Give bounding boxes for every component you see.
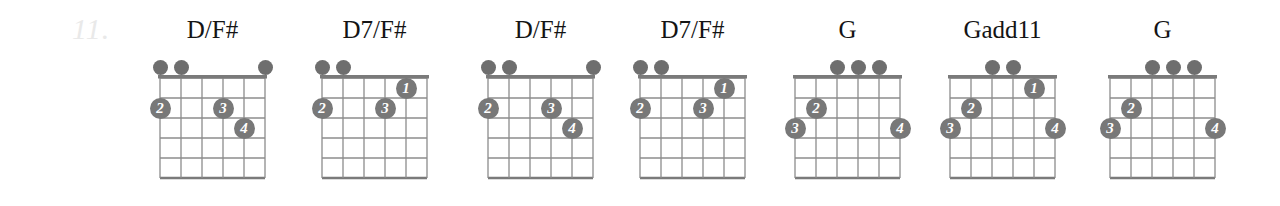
fretboard-grid: 234 bbox=[795, 78, 900, 178]
finger-number-label: 2 bbox=[484, 101, 492, 116]
finger-number-label: 3 bbox=[1106, 121, 1114, 136]
open-string-dot bbox=[1006, 60, 1021, 75]
finger-number-label: 4 bbox=[896, 121, 904, 136]
finger-number-label: 3 bbox=[219, 101, 227, 116]
finger-number-label: 4 bbox=[568, 121, 576, 136]
finger-position-marker: 2 bbox=[1121, 98, 1142, 119]
finger-number-label: 1 bbox=[402, 81, 410, 96]
finger-position-marker: 2 bbox=[806, 98, 827, 119]
finger-position-marker: 2 bbox=[630, 98, 651, 119]
chord-name-label: Gadd11 bbox=[930, 16, 1075, 44]
chord-name-label: D/F# bbox=[468, 16, 613, 44]
open-string-dot bbox=[654, 60, 669, 75]
open-string-dot bbox=[481, 60, 496, 75]
open-string-dot bbox=[1187, 60, 1202, 75]
open-string-dot bbox=[502, 60, 517, 75]
finger-position-marker: 3 bbox=[940, 118, 961, 139]
grid-lines bbox=[792, 75, 903, 181]
finger-number-label: 2 bbox=[636, 101, 644, 116]
finger-position-marker: 3 bbox=[213, 98, 234, 119]
finger-position-marker: 1 bbox=[714, 78, 735, 99]
open-string-dot bbox=[1166, 60, 1181, 75]
chord-name-label: D7/F# bbox=[302, 16, 447, 44]
finger-number-label: 2 bbox=[1127, 101, 1135, 116]
chord-diagram: D7/F#123 bbox=[302, 0, 447, 206]
finger-position-marker: 2 bbox=[961, 98, 982, 119]
open-string-dot bbox=[315, 60, 330, 75]
finger-number-label: 4 bbox=[1211, 121, 1219, 136]
open-string-dot bbox=[872, 60, 887, 75]
finger-position-marker: 4 bbox=[234, 118, 255, 139]
finger-number-label: 3 bbox=[791, 121, 799, 136]
fretboard-grid: 234 bbox=[1110, 78, 1215, 178]
finger-number-label: 2 bbox=[318, 101, 326, 116]
finger-number-label: 2 bbox=[967, 101, 975, 116]
chord-name-label: D7/F# bbox=[620, 16, 765, 44]
finger-number-label: 4 bbox=[1051, 121, 1059, 136]
fretboard-grid: 1234 bbox=[950, 78, 1055, 178]
finger-position-marker: 2 bbox=[478, 98, 499, 119]
finger-position-marker: 3 bbox=[693, 98, 714, 119]
grid-lines bbox=[1107, 75, 1218, 181]
chord-diagram: D/F#234 bbox=[468, 0, 613, 206]
fretboard-grid: 234 bbox=[488, 78, 593, 178]
finger-number-label: 3 bbox=[547, 101, 555, 116]
exercise-number: 11. bbox=[72, 12, 110, 46]
open-string-dot bbox=[830, 60, 845, 75]
finger-position-marker: 2 bbox=[150, 98, 171, 119]
open-string-dot bbox=[258, 60, 273, 75]
open-string-dot bbox=[336, 60, 351, 75]
finger-number-label: 3 bbox=[381, 101, 389, 116]
open-string-dot bbox=[153, 60, 168, 75]
finger-position-marker: 1 bbox=[1024, 78, 1045, 99]
finger-number-label: 3 bbox=[699, 101, 707, 116]
open-string-dot bbox=[586, 60, 601, 75]
finger-number-label: 2 bbox=[812, 101, 820, 116]
finger-position-marker: 3 bbox=[375, 98, 396, 119]
chord-diagram: D7/F#123 bbox=[620, 0, 765, 206]
finger-position-marker: 4 bbox=[890, 118, 911, 139]
finger-number-label: 1 bbox=[720, 81, 728, 96]
chord-diagram: Gadd111234 bbox=[930, 0, 1075, 206]
open-string-dot bbox=[633, 60, 648, 75]
open-string-dot bbox=[985, 60, 1000, 75]
chord-diagram: D/F#234 bbox=[140, 0, 285, 206]
finger-number-label: 1 bbox=[1030, 81, 1038, 96]
finger-position-marker: 1 bbox=[396, 78, 417, 99]
finger-position-marker: 2 bbox=[312, 98, 333, 119]
fretboard-grid: 123 bbox=[640, 78, 745, 178]
finger-position-marker: 4 bbox=[1045, 118, 1066, 139]
chord-diagram: G234 bbox=[775, 0, 920, 206]
chord-name-label: G bbox=[775, 16, 920, 44]
finger-position-marker: 3 bbox=[1100, 118, 1121, 139]
open-string-dot bbox=[174, 60, 189, 75]
open-string-dot bbox=[1145, 60, 1160, 75]
finger-position-marker: 3 bbox=[785, 118, 806, 139]
finger-number-label: 2 bbox=[156, 101, 164, 116]
chord-diagram: G234 bbox=[1090, 0, 1235, 206]
chord-chart-sheet: 11. D/F#234D7/F#123D/F#234D7/F#123G234Ga… bbox=[0, 0, 1280, 206]
chord-name-label: G bbox=[1090, 16, 1235, 44]
fretboard-grid: 123 bbox=[322, 78, 427, 178]
chord-name-label: D/F# bbox=[140, 16, 285, 44]
finger-position-marker: 4 bbox=[1205, 118, 1226, 139]
finger-position-marker: 3 bbox=[541, 98, 562, 119]
finger-number-label: 3 bbox=[946, 121, 954, 136]
finger-position-marker: 4 bbox=[562, 118, 583, 139]
fretboard-grid: 234 bbox=[160, 78, 265, 178]
finger-number-label: 4 bbox=[240, 121, 248, 136]
open-string-dot bbox=[851, 60, 866, 75]
